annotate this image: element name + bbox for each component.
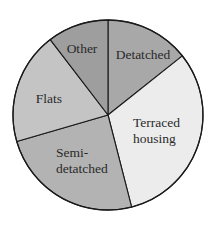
slice-label-other: Other xyxy=(67,41,98,56)
pie-chart: DetatchedTerracedhousingSemi-detatchedFl… xyxy=(0,0,214,231)
slice-label-terraced-housing: Terracedhousing xyxy=(133,115,180,146)
slice-label-detatched: Detatched xyxy=(116,47,171,62)
slice-label-flats: Flats xyxy=(36,91,62,106)
